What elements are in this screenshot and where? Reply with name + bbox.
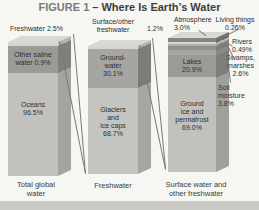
segment-ground-ice: Ground ice and permafrost 69.0%	[168, 77, 216, 172]
figure-number: FIGURE 1	[39, 1, 93, 13]
bar-freshwater-side-face	[138, 40, 151, 174]
caption-surface-water: Surface water and other freshwater	[158, 180, 234, 198]
bar-total-global-water: Other saline water 0.9% Oceans 96.5%	[8, 42, 58, 176]
callout-freshwater: Freshwater 2.5%	[10, 25, 80, 33]
figure-title: FIGURE 1 – Where Is Earth’s Water	[0, 1, 259, 13]
segment-other-saline-water: Other saline water 0.9%	[8, 46, 58, 73]
segment-ground-ice-label: Ground ice and permafrost 69.0%	[168, 77, 216, 132]
figure-title-text: – Where Is Earth’s Water	[92, 1, 220, 13]
segment-glaciers-label: Glaciers and ice caps 68.7%	[88, 88, 138, 138]
callout-surface-other-freshwater-value: 1.2%	[147, 25, 163, 33]
bar-freshwater: Ground- water 30.1% Glaciers and ice cap…	[88, 46, 138, 174]
bar-surface-water: Lakes 20.9% Ground ice and permafrost 69…	[168, 38, 216, 172]
segment-lakes-label: Lakes 20.9%	[168, 55, 216, 74]
callout-surface-other-freshwater: Surface/other freshwater	[84, 18, 142, 34]
segment-lakes: Lakes 20.9%	[168, 55, 216, 77]
wedge-line	[152, 38, 166, 169]
page-bottom-strip	[0, 201, 259, 210]
caption-total-global-water: Total global water	[6, 180, 66, 198]
segment-groundwater: Ground- water 30.1%	[88, 49, 138, 88]
wedge-line	[73, 34, 86, 174]
callout-soil-moisture: Soil moisture 3.8%	[218, 84, 252, 108]
segment-oceans-label: Oceans 96.5%	[8, 73, 58, 117]
segment-groundwater-label: Ground- water 30.1%	[88, 49, 138, 78]
caption-freshwater: Freshwater	[82, 181, 144, 190]
segment-glaciers: Glaciers and ice caps 68.7%	[88, 88, 138, 174]
segment-oceans: Oceans 96.5%	[8, 73, 58, 176]
segment-other-saline-water-label: Other saline water 0.9%	[8, 46, 58, 67]
bar-total-side-face	[58, 36, 71, 176]
figure-where-is-earths-water: FIGURE 1 – Where Is Earth’s Water Freshw…	[0, 0, 259, 210]
